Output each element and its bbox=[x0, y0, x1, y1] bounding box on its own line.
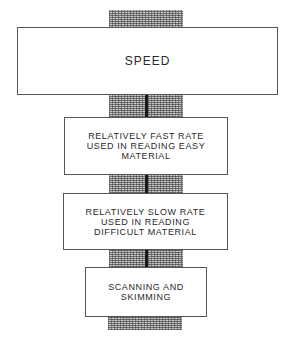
box-fast-rate-label: RELATIVELY FAST RATE USED IN READING EAS… bbox=[87, 131, 206, 161]
spine-stem-3 bbox=[145, 250, 148, 267]
box-slow-rate: RELATIVELY SLOW RATE USED IN READING DIF… bbox=[63, 193, 228, 250]
spine-stem-2 bbox=[145, 175, 148, 193]
box-scanning-skimming: SCANNING AND SKIMMING bbox=[85, 267, 207, 317]
box-scanning-skimming-label: SCANNING AND SKIMMING bbox=[108, 282, 184, 302]
spine-stem-1 bbox=[145, 95, 148, 117]
spine-top-segment bbox=[109, 10, 183, 28]
box-speed: SPEED bbox=[17, 27, 278, 95]
spine-bottom-segment bbox=[108, 316, 182, 330]
box-slow-rate-label: RELATIVELY SLOW RATE USED IN READING DIF… bbox=[86, 207, 206, 237]
box-fast-rate: RELATIVELY FAST RATE USED IN READING EAS… bbox=[64, 117, 228, 175]
box-speed-label: SPEED bbox=[125, 56, 171, 66]
